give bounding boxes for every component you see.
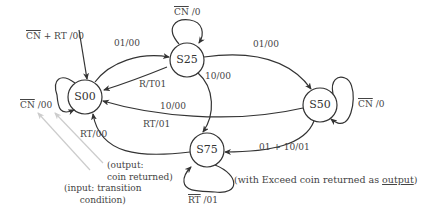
s25-to-s50-label: 01/00 (253, 40, 279, 49)
s50-self-label: CN /0 (358, 100, 384, 109)
state-s00-label: S00 (72, 91, 98, 102)
s50-to-s00-label-b: RT/01 (143, 120, 170, 129)
s50-to-s00-arrow (103, 101, 303, 117)
s25-self-label: CN /0 (174, 8, 200, 17)
state-s25-label: S25 (174, 54, 200, 65)
state-s75-label: S75 (194, 144, 220, 155)
output-annotation: (output: coin returned) (107, 159, 173, 183)
s50-to-s00-label-a: 10/00 (160, 102, 186, 111)
s00-to-s25-label: 01/00 (114, 39, 140, 48)
state-s50-label: S50 (307, 99, 333, 110)
s25-self-loop (172, 20, 202, 44)
s75-self-loop (184, 165, 234, 192)
s25-to-s75-arrow (198, 73, 211, 132)
s50-to-s75-label: 01 + 10/01 (259, 143, 310, 152)
s50-self-loop (331, 77, 353, 123)
s25-to-s00-label: R/T01 (139, 80, 166, 89)
s00-self-label: CN /00 (20, 101, 52, 110)
input-annotation: (input: transition condition) (64, 182, 142, 206)
s75-to-s00-label: RT/00 (80, 130, 107, 139)
exceed-coin-note: (with Exceed coin returned as output) (234, 175, 417, 185)
s25-to-s75-label: 10/00 (205, 72, 231, 81)
s75-self-label: RT /01 (188, 196, 218, 205)
s75-to-s00-arrow (93, 114, 190, 154)
entry-transition-label: CN + RT /00 (26, 32, 84, 41)
